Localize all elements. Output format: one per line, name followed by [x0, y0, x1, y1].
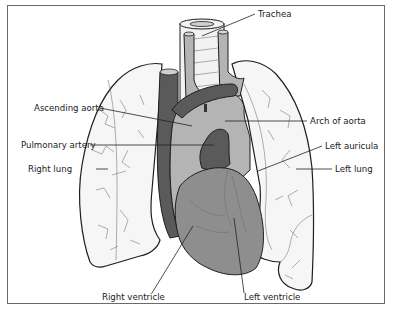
label-left-ventricle: Left ventricle [244, 292, 300, 302]
label-left-auricula: Left auricula [325, 141, 378, 151]
label-pulmonary-artery: Pulmonary artery [21, 140, 96, 150]
ventricles [175, 168, 263, 275]
label-arch-of-aorta: Arch of aorta [310, 116, 366, 126]
label-right-ventricle: Right ventricle [102, 292, 165, 302]
label-right-lung: Right lung [28, 164, 72, 174]
label-left-lung: Left lung [335, 164, 373, 174]
right-lung [80, 64, 162, 268]
heart-lungs-diagram: Trachea Ascending aorta Arch of aorta Pu… [0, 0, 394, 312]
label-ascending-aorta: Ascending aorta [34, 103, 104, 113]
label-trachea: Trachea [257, 9, 292, 19]
